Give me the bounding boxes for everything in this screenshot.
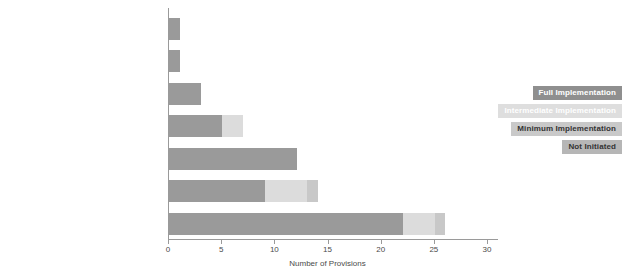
horizontal-stacked-bar-chart: Commission to Address Damage and LossInt… xyxy=(0,0,627,280)
x-axis-tick-label: 15 xyxy=(323,245,332,254)
x-axis-line xyxy=(168,239,498,240)
chart-row: Regional Peacekeeping Force xyxy=(168,115,487,137)
x-axis-tick-label: 20 xyxy=(376,245,385,254)
chart-row: UN Peacekeeping Force xyxy=(168,148,487,170)
x-axis-tick xyxy=(434,239,435,244)
x-axis-title: Number of Provisions xyxy=(168,259,487,268)
bar-segment-intermediate-implementation xyxy=(222,115,243,137)
stacked-bar xyxy=(169,18,180,40)
x-axis-tick xyxy=(381,239,382,244)
bar-segment-full-implementation xyxy=(169,50,180,72)
legend-item-minimum-implementation[interactable]: Minimum Implementation xyxy=(511,122,622,136)
bar-segment-not-initiated xyxy=(435,213,446,235)
bar-segment-full-implementation xyxy=(169,148,297,170)
bar-segment-not-initiated xyxy=(307,180,318,202)
chart-row: UN Transitional Authority xyxy=(168,83,487,105)
chart-row: Withdrawal of Troops xyxy=(168,180,487,202)
legend-item-not-initiated[interactable]: Not Initiated xyxy=(562,140,622,154)
bar-segment-full-implementation xyxy=(169,213,403,235)
bar-segment-intermediate-implementation xyxy=(403,213,435,235)
x-axis-tick-label: 30 xyxy=(483,245,492,254)
x-axis-tick xyxy=(487,239,488,244)
bar-segment-full-implementation xyxy=(169,115,222,137)
bar-segment-intermediate-implementation xyxy=(265,180,308,202)
plot-area: Commission to Address Damage and LossInt… xyxy=(168,8,487,238)
bar-segment-full-implementation xyxy=(169,18,180,40)
legend-item-intermediate-implementation[interactable]: Intermediate Implementation xyxy=(498,104,622,118)
stacked-bar xyxy=(169,83,201,105)
chart-row: Commission to Address Damage and Loss xyxy=(168,18,487,40)
x-axis-tick xyxy=(274,239,275,244)
bar-segment-full-implementation xyxy=(169,83,201,105)
stacked-bar xyxy=(169,180,318,202)
chart-legend: Full ImplementationIntermediate Implemen… xyxy=(497,86,622,154)
x-axis-tick-label: 25 xyxy=(429,245,438,254)
x-axis-tick-label: 0 xyxy=(166,245,170,254)
chart-row: International Arbitration on Land xyxy=(168,50,487,72)
x-axis-tick-label: 10 xyxy=(270,245,279,254)
stacked-bar xyxy=(169,115,243,137)
stacked-bar xyxy=(169,213,445,235)
x-axis-tick xyxy=(328,239,329,244)
x-axis-tick xyxy=(221,239,222,244)
legend-item-full-implementation[interactable]: Full Implementation xyxy=(533,86,622,100)
chart-row: UN, International, or Internal Verificat… xyxy=(168,213,487,235)
bar-segment-full-implementation xyxy=(169,180,265,202)
x-axis-tick xyxy=(168,239,169,244)
stacked-bar xyxy=(169,148,297,170)
stacked-bar xyxy=(169,50,180,72)
x-axis-tick-label: 5 xyxy=(219,245,223,254)
